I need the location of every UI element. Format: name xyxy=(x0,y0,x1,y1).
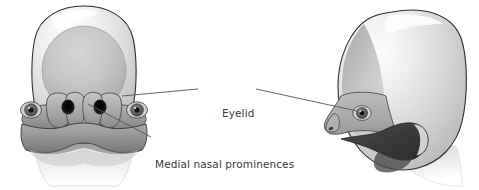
lateral-eye xyxy=(353,106,371,121)
label-medial-nasal-prominences: Medial nasal prominences merging with ea… xyxy=(155,131,321,190)
lateral-view-embryo-head xyxy=(324,10,466,186)
left-nasal-pit xyxy=(61,100,74,115)
frontal-left-eye xyxy=(21,102,42,118)
right-nasal-pit xyxy=(93,100,106,115)
label-medial-nasal-line-1: Medial nasal prominences xyxy=(155,158,321,172)
frontal-right-eye xyxy=(127,102,148,118)
label-eyelid-text: Eyelid xyxy=(222,107,254,119)
frontal-view-embryo-head xyxy=(21,6,148,186)
embryo-face-figure: Eyelid Medial nasal prominences merging … xyxy=(0,0,479,190)
